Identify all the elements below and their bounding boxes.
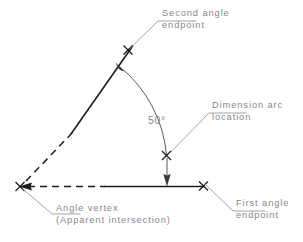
- annotation-angle-vertex-line2: (Apparent intersection): [56, 215, 171, 225]
- vertex-arrowhead: [19, 183, 32, 191]
- annotation-dimension-arc-location: Dimension arc location: [212, 100, 283, 122]
- annotation-second-angle-endpoint-line2: endpoint: [162, 20, 205, 30]
- annotation-dimension-arc-location-line1: Dimension arc: [212, 100, 283, 110]
- dimension-arc-lower-arrowhead: [163, 174, 170, 187]
- annotation-angle-vertex-line1: Angle vertex: [56, 203, 118, 213]
- annotation-second-angle-endpoint-line1: Second angle: [162, 8, 230, 18]
- annotation-first-angle-endpoint-line1: First angle: [236, 198, 289, 208]
- dimension-arc: [120, 67, 167, 156]
- diagonal-leg-dashed-extension: [26, 133, 72, 181]
- diagonal-leg-solid: [71, 46, 133, 135]
- annotation-second-angle-endpoint: Second angle endpoint: [162, 8, 230, 30]
- annotation-first-angle-endpoint-line2: endpoint: [236, 210, 279, 220]
- annotation-dimension-arc-location-line2: location: [212, 112, 251, 122]
- cad-drawing-canvas: 50° Second angle endpoint Dimension arc …: [0, 0, 303, 242]
- angular-dimension-diagram: 50° Second angle endpoint Dimension arc …: [0, 0, 303, 242]
- annotation-first-angle-endpoint: First angle endpoint: [236, 198, 289, 220]
- angle-value-label: 50°: [148, 114, 166, 126]
